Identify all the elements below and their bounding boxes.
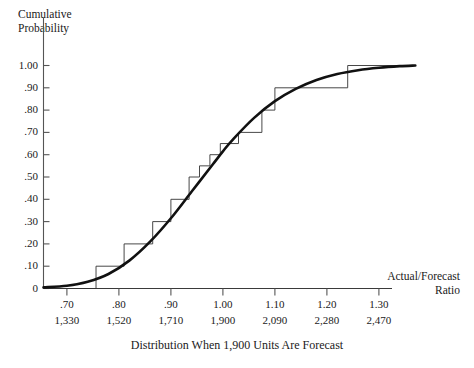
y-tick-label: .90: [4, 81, 38, 93]
y-tick-label: 1.00: [4, 59, 38, 71]
x-tick-label: 1.00: [198, 298, 248, 310]
x-tick-label: .70: [42, 298, 92, 310]
x-tick-label-units: 1,520: [94, 314, 144, 326]
y-tick-label: .10: [4, 259, 38, 271]
y-tick-label: .80: [4, 103, 38, 115]
y-tick-label: .40: [4, 192, 38, 204]
x-tick-label-units: 1,710: [146, 314, 196, 326]
empirical-step-curve: [44, 66, 416, 289]
smooth-ogive-curve: [44, 66, 416, 288]
y-tick-label: 0: [4, 282, 38, 294]
y-tick-label: .50: [4, 170, 38, 182]
y-tick-label: .30: [4, 215, 38, 227]
x-tick-label: 1.20: [302, 298, 352, 310]
x-tick-marks: [67, 289, 379, 296]
chart-container: Cumulative Probability Actual/Forecast R…: [0, 0, 474, 368]
y-tick-label: .60: [4, 148, 38, 160]
x-tick-label: .90: [146, 298, 196, 310]
axes-group: [44, 18, 393, 289]
chart-caption: Distribution When 1,900 Units Are Foreca…: [0, 338, 474, 353]
y-tick-label: .70: [4, 125, 38, 137]
x-tick-label-units: 1,330: [42, 314, 92, 326]
x-tick-label-units: 2,280: [302, 314, 352, 326]
y-tick-marks: [44, 66, 50, 289]
x-tick-label-units: 2,470: [354, 314, 404, 326]
x-tick-label: 1.30: [354, 298, 404, 310]
x-tick-label-units: 1,900: [198, 314, 248, 326]
y-tick-label: .20: [4, 237, 38, 249]
x-tick-label: 1.10: [250, 298, 300, 310]
x-tick-label: .80: [94, 298, 144, 310]
x-tick-label-units: 2,090: [250, 314, 300, 326]
